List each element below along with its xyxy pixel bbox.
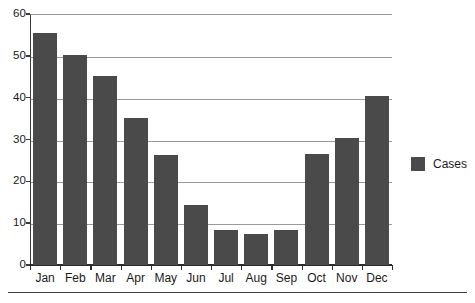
x-axis-tick-mark [121,265,122,270]
bar-aug[interactable] [244,234,268,265]
x-axis-tick-mark [60,265,61,270]
bar-jan[interactable] [33,33,57,265]
bar-apr[interactable] [124,118,148,265]
y-axis-tick-label: 50 [0,50,26,62]
bars-layer [30,14,392,265]
x-axis-tick-mark [302,265,303,270]
x-axis-tick-mark [392,265,393,270]
bar-jul[interactable] [214,230,238,265]
bar-may[interactable] [154,155,178,265]
bar-feb[interactable] [63,55,87,265]
y-axis-tick-label: 0 [0,259,26,271]
bar-sep[interactable] [274,230,298,265]
footer-divider [8,292,467,293]
chart-legend: Cases [411,157,467,171]
y-axis-tick-label: 10 [0,217,26,229]
legend-swatch-cases [411,157,425,171]
legend-label-cases: Cases [433,157,467,171]
x-axis-tick-mark [271,265,272,270]
y-axis-tick-label: 20 [0,175,26,187]
x-axis-tick-mark [362,265,363,270]
bar-jun[interactable] [184,205,208,265]
bar-mar[interactable] [93,76,117,265]
bar-chart-figure: 0102030405060 JanFebMarAprMayJunJulAugSe… [0,0,475,303]
bar-oct[interactable] [305,154,329,265]
y-axis: 0102030405060 [0,0,27,303]
y-axis-tick-label: 60 [0,8,26,20]
bar-dec[interactable] [365,96,389,265]
x-axis-tick-mark [332,265,333,270]
x-axis-tick-mark [211,265,212,270]
x-axis-tick-mark [90,265,91,270]
x-axis-tick-mark [30,265,31,270]
x-axis-tick-mark [151,265,152,270]
y-axis-tick-label: 30 [0,134,26,146]
y-axis-tick-label: 40 [0,92,26,104]
x-axis-tick-mark [241,265,242,270]
bar-nov[interactable] [335,138,359,265]
x-axis-tick-mark [181,265,182,270]
x-axis-tick-label-dec: Dec [358,272,396,285]
